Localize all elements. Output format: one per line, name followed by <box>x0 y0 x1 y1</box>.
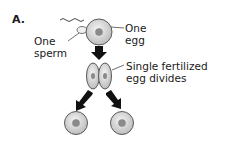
arrow-down-left-icon <box>76 90 93 111</box>
sperm-tail <box>60 19 84 22</box>
arrow-down-right-icon <box>106 90 121 109</box>
sperm-head <box>77 27 87 34</box>
sperm-label: Onesperm <box>34 35 67 59</box>
arrow-down-icon <box>91 46 107 60</box>
divides-label: Single fertilizedegg divides <box>126 60 208 84</box>
egg-nucleus <box>95 28 103 36</box>
egg-label: Oneegg <box>125 22 146 46</box>
